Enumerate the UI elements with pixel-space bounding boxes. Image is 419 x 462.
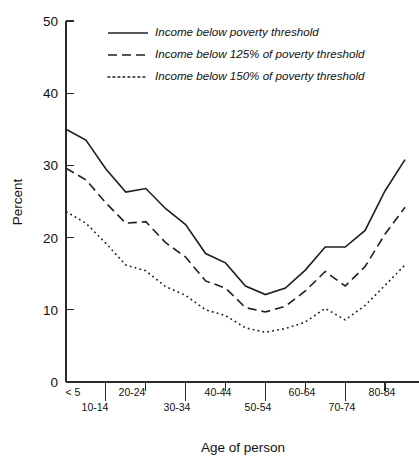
x-axis-title: Age of person [201, 440, 285, 455]
y-axis-tick-label: 10 [43, 303, 58, 318]
x-axis-tick-label: 40-44 [205, 386, 232, 398]
x-axis-tick-label: 80-84 [369, 386, 396, 398]
y-axis-tick-label: 50 [43, 14, 58, 29]
x-axis-tick-label: 20-24 [119, 386, 146, 398]
x-axis-tick-label: 30-34 [164, 401, 191, 413]
y-axis-tick-label: 30 [43, 158, 58, 173]
x-axis-tick-label: 70-74 [329, 401, 356, 413]
legend-label: Income below poverty threshold [155, 25, 319, 38]
x-axis-tick-label: 60-64 [289, 386, 316, 398]
y-axis-title: Percent [10, 178, 25, 225]
poverty-by-age-chart: 01020304050 < 520-2440-4460-6480-8410-14… [0, 0, 419, 462]
legend-label: Income below 125% of poverty threshold [155, 47, 365, 60]
y-axis-tick-label: 0 [50, 375, 58, 390]
x-axis-tick-label: < 5 [66, 386, 81, 398]
y-axis-tick-label: 20 [43, 231, 58, 246]
x-axis-tick-label: 50-54 [245, 401, 272, 413]
legend-label: Income below 150% of poverty threshold [155, 69, 365, 82]
chart-svg: 01020304050 < 520-2440-4460-6480-8410-14… [0, 0, 419, 462]
y-axis-tick-label: 40 [43, 86, 58, 101]
x-axis-tick-label: 10-14 [82, 401, 109, 413]
